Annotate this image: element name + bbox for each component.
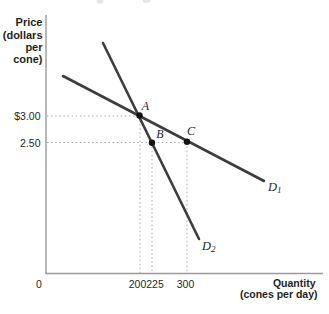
x-tick-origin: 0 <box>36 278 42 290</box>
x-tick-225: 225 <box>146 278 164 290</box>
y-tick-3.00: $3.00 <box>14 110 40 122</box>
y-tick-2.50: 2.50 <box>20 137 41 149</box>
y-axis-title-line-1: Price <box>16 16 43 28</box>
point-c-label: C <box>187 124 196 138</box>
curve-d1-label-main: D <box>267 180 277 194</box>
curve-d2-label: D2 <box>201 239 216 255</box>
curve-d2-label-sub: 2 <box>211 244 216 254</box>
curve-d1-label-sub: 1 <box>277 185 282 195</box>
point-a-dot <box>136 112 142 118</box>
curve-d1-label: D1 <box>267 180 282 196</box>
y-axis-title-line-2: (dollars <box>3 29 43 41</box>
point-b-label: B <box>156 127 164 141</box>
artifact-smudge <box>97 0 104 4</box>
figure-canvas: Price (dollars per cone) $3.00 2.50 0 20… <box>0 0 329 314</box>
x-axis-title-line-2: (cones per day) <box>240 288 318 300</box>
curve-d2-label-main: D <box>201 239 211 253</box>
point-a-label: A <box>141 99 150 113</box>
y-axis-title-line-4: cone) <box>13 53 43 65</box>
x-tick-300: 300 <box>177 278 195 290</box>
point-c-dot <box>184 139 190 145</box>
point-b-dot <box>149 140 155 146</box>
artifact-smudge <box>143 0 151 3</box>
demand-curves-figure: Price (dollars per cone) $3.00 2.50 0 20… <box>0 0 329 314</box>
x-tick-200: 200 <box>129 278 147 290</box>
y-axis-title-line-3: per <box>25 41 43 53</box>
